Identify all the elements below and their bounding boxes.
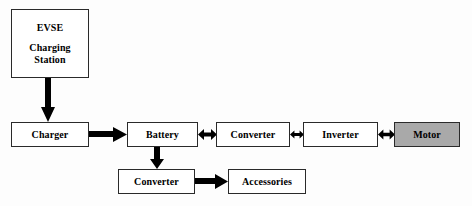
- node-converter-hv-label: Converter: [231, 129, 276, 140]
- node-converter-low-voltage[interactable]: Converter: [118, 169, 195, 194]
- connector-battery-to-converter-lv: [149, 147, 165, 170]
- node-motor-label: Motor: [413, 129, 441, 140]
- node-evse-label-line3: Station: [34, 54, 65, 65]
- node-charger[interactable]: Charger: [11, 122, 89, 147]
- node-battery-label: Battery: [146, 129, 179, 140]
- connector-converter-lv-to-accessories: [195, 173, 229, 190]
- node-converter-lv-label: Converter: [134, 176, 179, 187]
- node-evse-charging-station[interactable]: EVSE Charging Station: [11, 9, 89, 78]
- node-evse-label-line1: EVSE: [37, 22, 64, 33]
- connector-battery-to-converter-hv: [198, 127, 217, 142]
- node-charger-label: Charger: [32, 129, 69, 140]
- connector-charger-to-battery: [89, 126, 128, 143]
- node-inverter[interactable]: Inverter: [303, 122, 378, 147]
- powertrain-block-diagram: EVSE Charging Station Charger Battery Co…: [0, 0, 472, 206]
- connector-evse-to-charger: [40, 78, 56, 123]
- node-accessories[interactable]: Accessories: [228, 169, 306, 194]
- node-accessories-label: Accessories: [242, 176, 292, 187]
- node-battery[interactable]: Battery: [127, 122, 198, 147]
- node-motor[interactable]: Motor: [394, 122, 460, 147]
- node-inverter-label: Inverter: [322, 129, 358, 140]
- node-converter-high-voltage[interactable]: Converter: [216, 122, 290, 147]
- connector-inverter-to-motor: [378, 127, 395, 142]
- node-evse-label-line2: Charging: [29, 42, 70, 53]
- connector-converter-hv-to-inverter: [290, 127, 304, 142]
